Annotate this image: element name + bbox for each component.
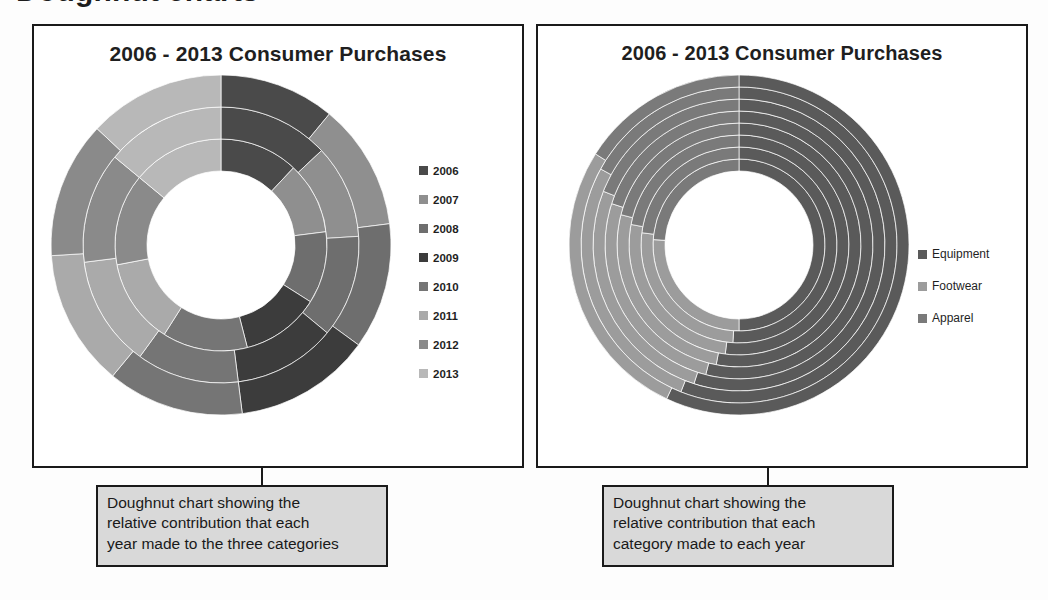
legend-swatch-icon — [419, 195, 428, 204]
legend-left-item[interactable]: 2006 — [419, 156, 459, 185]
legend-swatch-icon — [419, 166, 428, 175]
legend-swatch-icon — [419, 311, 428, 320]
caption-right-line: Doughnut chart showing the — [613, 493, 883, 513]
legend-left-label: 2006 — [433, 165, 459, 177]
doughnut-right-svg — [566, 72, 912, 418]
legend-left-label: 2009 — [433, 252, 459, 264]
chart-panel-left: 2006 - 2013 Consumer Purchases 200620072… — [32, 24, 524, 468]
legend-right-label: Apparel — [932, 311, 973, 325]
legend-left-label: 2008 — [433, 223, 459, 235]
legend-swatch-icon — [918, 250, 927, 259]
legend-left-item[interactable]: 2010 — [419, 272, 459, 301]
legend-left-item[interactable]: 2009 — [419, 243, 459, 272]
caption-left-line: relative contribution that each — [107, 513, 377, 533]
legend-swatch-icon — [419, 224, 428, 233]
doughnut-chart-left — [48, 72, 394, 418]
legend-right-item[interactable]: Equipment — [918, 238, 989, 270]
caption-left-line: Doughnut chart showing the — [107, 493, 377, 513]
legend-swatch-icon — [419, 282, 428, 291]
legend-right: EquipmentFootwearApparel — [918, 238, 989, 334]
chart-panel-right: 2006 - 2013 Consumer Purchases Equipment… — [536, 24, 1028, 468]
legend-left-item[interactable]: 2008 — [419, 214, 459, 243]
legend-left-item[interactable]: 2011 — [419, 301, 459, 330]
caption-right-line: relative contribution that each — [613, 513, 883, 533]
legend-left-item[interactable]: 2012 — [419, 330, 459, 359]
top-heading-text: Doughnut charts — [16, 0, 259, 8]
caption-left-line: year made to the three categories — [107, 534, 377, 554]
legend-right-label: Equipment — [932, 247, 989, 261]
legend-left-item[interactable]: 2013 — [419, 359, 459, 388]
callout-connector-right — [767, 468, 769, 486]
doughnut-left-svg — [48, 72, 394, 418]
legend-left-label: 2011 — [433, 310, 458, 322]
legend-swatch-icon — [419, 369, 428, 378]
legend-left-label: 2007 — [433, 194, 459, 206]
legend-swatch-icon — [419, 340, 428, 349]
caption-left: Doughnut chart showing therelative contr… — [96, 485, 388, 567]
chart-title-right: 2006 - 2013 Consumer Purchases — [538, 42, 1026, 65]
legend-left: 20062007200820092010201120122013 — [419, 156, 459, 388]
doughnut-chart-right — [566, 72, 912, 418]
legend-swatch-icon — [918, 282, 927, 291]
legend-right-item[interactable]: Footwear — [918, 270, 989, 302]
top-heading-remnant: Doughnut charts — [0, 0, 1048, 14]
callout-connector-left — [261, 468, 263, 486]
legend-right-item[interactable]: Apparel — [918, 302, 989, 334]
legend-swatch-icon — [918, 314, 927, 323]
legend-left-label: 2012 — [433, 339, 459, 351]
legend-swatch-icon — [419, 253, 428, 262]
legend-left-label: 2010 — [433, 281, 459, 293]
caption-right-line: category made to each year — [613, 534, 883, 554]
caption-right: Doughnut chart showing therelative contr… — [602, 485, 894, 567]
legend-left-item[interactable]: 2007 — [419, 185, 459, 214]
legend-left-label: 2013 — [433, 368, 459, 380]
chart-title-left: 2006 - 2013 Consumer Purchases — [34, 42, 522, 66]
legend-right-label: Footwear — [932, 279, 982, 293]
